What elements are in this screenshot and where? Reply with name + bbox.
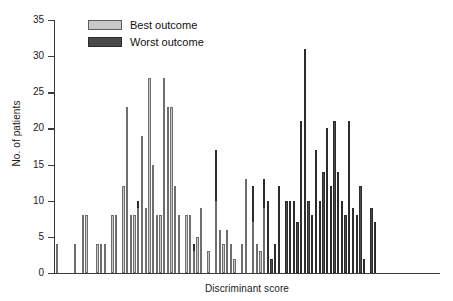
histogram-bar: [315, 150, 317, 273]
histogram-bar: [85, 215, 87, 273]
legend-label-worst: Worst outcome: [130, 36, 204, 48]
bar-segment-best: [104, 244, 106, 273]
histogram-bar: [100, 244, 102, 273]
histogram-bar: [159, 215, 161, 273]
histogram-bar: [245, 179, 247, 273]
bar-segment-worst: [356, 215, 358, 273]
bar-segment-worst: [289, 201, 291, 273]
bar-segment-best: [74, 244, 76, 273]
histogram-bar: [278, 186, 280, 273]
histogram-bar: [167, 107, 169, 273]
y-tick-mark: [48, 56, 54, 57]
histogram-bar: [259, 251, 261, 273]
histogram-bar: [152, 165, 154, 273]
bar-segment-worst: [293, 201, 295, 273]
histogram-bar: [219, 230, 221, 273]
bar-segment-worst: [285, 201, 287, 273]
histogram-bar: [104, 244, 106, 273]
y-tick-label: 0: [22, 268, 44, 278]
bar-segment-worst: [296, 222, 298, 273]
bar-segment-worst: [348, 121, 350, 273]
y-tick-mark: [48, 273, 54, 274]
bar-segment-best: [156, 215, 158, 273]
histogram-bar: [307, 201, 309, 273]
bar-segment-best: [137, 208, 139, 273]
histogram-bar: [130, 215, 132, 273]
histogram-bar: [178, 215, 180, 273]
histogram-bar: [196, 237, 198, 273]
bar-segment-worst: [322, 172, 324, 273]
bar-segment-best: [167, 107, 169, 273]
bar-segment-best: [148, 78, 150, 273]
histogram-bar: [126, 107, 128, 273]
bar-segment-worst: [311, 215, 313, 273]
histogram-bar: [330, 186, 332, 273]
bar-segment-worst: [300, 121, 302, 273]
bar-segment-best: [193, 251, 195, 273]
bar-segment-worst: [330, 186, 332, 273]
histogram-bar: [156, 215, 158, 273]
y-tick-mark: [48, 237, 54, 238]
y-tick-label: 30: [22, 51, 44, 61]
legend-swatch-worst-icon: [88, 37, 122, 47]
histogram-bar: [352, 208, 354, 273]
histogram-bar: [348, 121, 350, 273]
bar-segment-best: [252, 222, 254, 273]
histogram-bar: [300, 121, 302, 273]
histogram-bar: [311, 215, 313, 273]
y-axis-label: No. of patients: [11, 74, 22, 194]
legend-item-best: Best outcome: [88, 16, 204, 33]
y-tick-mark: [48, 20, 54, 21]
plot-area: [55, 20, 440, 273]
histogram-bar: [74, 244, 76, 273]
bar-segment-best: [152, 165, 154, 273]
bar-segment-worst: [333, 121, 335, 273]
histogram-bar: [148, 78, 150, 273]
histogram-bar: [289, 201, 291, 273]
bar-segment-worst: [270, 259, 272, 273]
histogram-bar: [185, 215, 187, 273]
histogram-bar: [285, 201, 287, 273]
y-tick-label: 35: [22, 15, 44, 25]
bar-segment-best: [111, 215, 113, 273]
histogram-bar: [163, 78, 165, 273]
histogram-bar: [215, 150, 217, 273]
bar-segment-best: [56, 244, 58, 273]
x-axis-line: [54, 273, 440, 274]
bar-segment-best: [200, 208, 202, 273]
histogram-bar: [344, 215, 346, 273]
bar-segment-best: [122, 186, 124, 273]
bar-segment-best: [241, 244, 243, 273]
bar-segment-best: [82, 215, 84, 273]
bar-segment-best: [219, 230, 221, 273]
bar-segment-best: [185, 215, 187, 273]
histogram-bar: [56, 244, 58, 273]
histogram-bar: [207, 251, 209, 273]
bar-segment-worst: [215, 150, 217, 201]
histogram-bar: [319, 201, 321, 273]
histogram-bar: [270, 259, 272, 273]
bar-segment-best: [115, 215, 117, 273]
y-tick-label: 10: [22, 196, 44, 206]
histogram-bar: [133, 215, 135, 273]
histogram-bar: [363, 259, 365, 273]
bar-segment-worst: [337, 172, 339, 273]
histogram-bar: [122, 186, 124, 273]
histogram-bar: [200, 208, 202, 273]
histogram-bar: [322, 172, 324, 273]
legend-swatch-best-icon: [88, 20, 122, 30]
histogram-bar: [252, 186, 254, 273]
histogram-bar: [141, 136, 143, 273]
bar-segment-best: [178, 215, 180, 273]
chart-figure: No. of patients 05101520253035 Discrimin…: [0, 0, 453, 301]
bar-segment-worst: [370, 208, 372, 273]
histogram-bar: [296, 222, 298, 273]
bar-segment-worst: [341, 201, 343, 273]
bar-segment-worst: [304, 49, 306, 273]
bar-segment-worst: [359, 186, 361, 273]
bar-segment-worst: [326, 128, 328, 273]
histogram-bar: [137, 201, 139, 273]
histogram-bar: [115, 215, 117, 273]
histogram-bar: [356, 215, 358, 273]
bar-segment-best: [174, 186, 176, 273]
